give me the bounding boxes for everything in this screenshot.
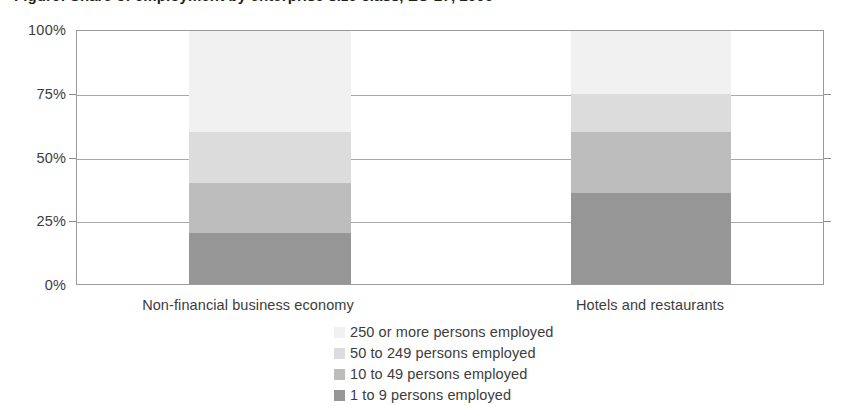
chart-legend: 250 or more persons employed 50 to 249 p… [334,322,554,405]
y-tick-mark-75-right [824,94,831,95]
y-axis-label-100: 100% [2,22,66,38]
y-tick-mark-75-left [69,94,76,95]
y-axis-label-50: 50% [2,150,66,166]
legend-label-1-to-9: 1 to 9 persons employed [350,387,511,403]
y-tick-mark-25-right [824,221,831,222]
y-tick-mark-25-left [69,221,76,222]
bar-segment-10-to-49[interactable] [189,183,351,234]
legend-swatch-1-to-9 [334,390,345,401]
legend-item-250-or-more[interactable]: 250 or more persons employed [334,322,554,342]
bar-segment-250-or-more[interactable] [189,31,351,132]
legend-swatch-50-to-249 [334,348,345,359]
y-tick-mark-50-left [69,158,76,159]
y-axis-label-0: 0% [2,277,66,293]
legend-label-250-or-more: 250 or more persons employed [350,324,554,340]
y-axis-label-25: 25% [2,213,66,229]
y-axis-label-75: 75% [2,86,66,102]
chart-title: Figure: Share of employment by enterpris… [14,0,493,4]
x-axis-category-label-1: Hotels and restaurants [530,297,770,313]
bar-segment-50-to-249[interactable] [571,94,731,132]
bar-hotels-and-restaurants[interactable] [571,31,731,284]
legend-item-50-to-249[interactable]: 50 to 249 persons employed [334,343,554,363]
plot-area [76,30,824,285]
bar-non-financial-business-economy[interactable] [189,31,351,284]
legend-label-50-to-249: 50 to 249 persons employed [350,345,536,361]
bar-segment-1-to-9[interactable] [571,193,731,284]
y-tick-mark-50-right [824,158,831,159]
x-axis-category-label-0: Non-financial business economy [108,297,388,313]
legend-swatch-250-or-more [334,327,345,338]
legend-item-10-to-49[interactable]: 10 to 49 persons employed [334,364,554,384]
bar-segment-1-to-9[interactable] [189,233,351,284]
legend-swatch-10-to-49 [334,369,345,380]
legend-item-1-to-9[interactable]: 1 to 9 persons employed [334,385,554,405]
bar-segment-10-to-49[interactable] [571,132,731,193]
bar-segment-250-or-more[interactable] [571,31,731,94]
legend-label-10-to-49: 10 to 49 persons employed [350,366,527,382]
bar-segment-50-to-249[interactable] [189,132,351,183]
